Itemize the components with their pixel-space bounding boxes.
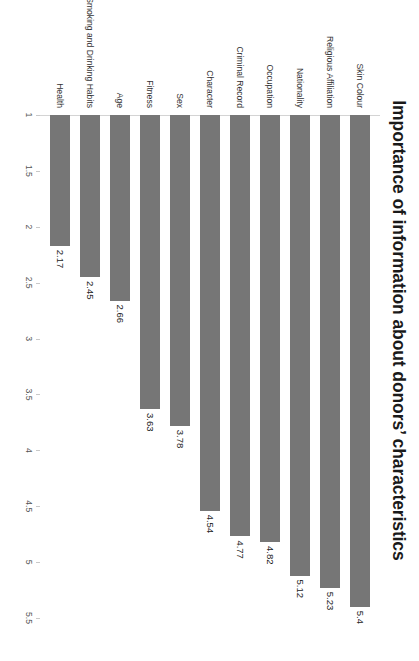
bar [110,115,130,301]
axis-tick-mark [36,171,40,172]
category-label: Nationality [295,68,305,108]
bar-row: 2.17Health [50,115,70,618]
bar-value-label: 2.45 [85,277,96,300]
category-label: Skin Colour [355,64,365,108]
category-label: Occupation [265,65,275,108]
axis-tick-mark [36,115,40,116]
axis-tick-label: 4.5 [24,500,34,512]
axis-tick-label: 1.5 [24,165,34,177]
chart-title: Importance of information about donors’ … [388,0,409,661]
category-label: Age [115,93,125,108]
bar [320,115,340,588]
category-label: Religious Affiliation [325,36,335,108]
bar [230,115,250,536]
axis-tick-label: 1 [24,113,34,118]
bar-value-label: 4.54 [205,511,216,534]
bar-value-label: 5.4 [355,607,366,624]
bar [170,115,190,426]
bar-value-label: 2.17 [55,246,66,269]
axis-tick-label: 3.5 [24,388,34,400]
bar [80,115,100,277]
bar [290,115,310,576]
bar-row: 2.45Smoking and Drinking Habits [80,115,100,618]
bar-value-label: 2.66 [115,301,126,324]
bar-value-label: 4.82 [265,542,276,565]
axis-tick-mark [36,562,40,563]
axis-tick-label: 3 [24,336,34,341]
category-label: Smoking and Drinking Habits [85,0,95,108]
bar-value-label: 5.12 [295,576,306,599]
axis-tick-mark [36,506,40,507]
bar-row: 5.12Nationality [290,115,310,618]
axis-tick-mark [36,618,40,619]
axis-tick-mark [36,450,40,451]
bar-value-label: 3.78 [175,426,186,449]
bar [350,115,370,607]
bar-row: 4.77Criminal Record [230,115,250,618]
category-label: Character [205,70,215,108]
bar-series: 5.4Skin Colour5.23Religious Affiliation5… [45,115,375,618]
axis-tick-mark [36,227,40,228]
axis-tick-label: 5.5 [24,612,34,624]
bar-value-label: 4.77 [235,536,246,559]
bar-row: 5.4Skin Colour [350,115,370,618]
chart-figure: Importance of information about donors’ … [0,0,419,661]
bar-row: 4.82Occupation [260,115,280,618]
bar [140,115,160,409]
bar [260,115,280,542]
bar-row: 3.63Fitness [140,115,160,618]
category-label: Criminal Record [235,46,245,108]
axis-tick-label: 2 [24,224,34,229]
bar-row: 5.23Religious Affiliation [320,115,340,618]
axis-tick-label: 5 [24,560,34,565]
bar-value-label: 5.23 [325,588,336,611]
axis-tick-mark [36,339,40,340]
category-label: Sex [175,93,185,108]
axis-tick-label: 2.5 [24,277,34,289]
bar-row: 4.54Character [200,115,220,618]
category-label: Health [55,83,65,108]
bar-row: 2.66Age [110,115,130,618]
value-axis-ticks: 11.522.533.544.555.5 [0,115,40,618]
bar [200,115,220,511]
bar-row: 3.78Sex [170,115,190,618]
axis-tick-mark [36,283,40,284]
bar [50,115,70,246]
bar-value-label: 3.63 [145,409,156,432]
plot-area: 5.4Skin Colour5.23Religious Affiliation5… [45,115,375,618]
category-label: Fitness [145,80,155,108]
axis-tick-label: 4 [24,448,34,453]
axis-tick-mark [36,394,40,395]
